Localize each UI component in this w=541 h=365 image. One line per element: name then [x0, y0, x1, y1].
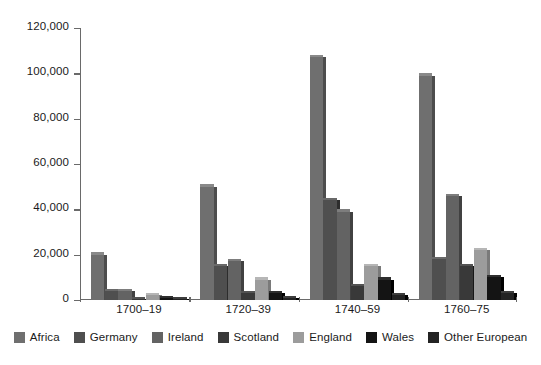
legend-item-africa[interactable]: Africa [14, 331, 60, 343]
bar-top-highlight [460, 264, 473, 266]
bar-face [200, 187, 213, 300]
bar [160, 298, 173, 300]
bar [173, 299, 186, 300]
bar [91, 255, 104, 300]
bar-top-highlight [283, 296, 296, 298]
x-tick-mark [80, 297, 81, 302]
legend-swatch-icon [293, 332, 304, 343]
y-tick-label: 40,000 [33, 201, 69, 213]
bar-group [200, 28, 296, 300]
legend-label: Africa [30, 331, 60, 343]
bar-top-highlight [419, 73, 432, 75]
x-tick-label: 1760–75 [417, 303, 517, 315]
bar-group [419, 28, 515, 300]
bar-top-highlight [337, 209, 350, 211]
bar-face [160, 298, 173, 300]
bar-top-highlight [214, 264, 227, 266]
bar-face [146, 295, 159, 300]
legend-swatch-icon [366, 332, 377, 343]
bar-top-highlight [105, 289, 118, 291]
bar-face [364, 266, 377, 300]
legend-swatch-icon [218, 332, 229, 343]
x-axis: 1700–191720–391740–591760–75 [80, 303, 517, 323]
bar [392, 295, 405, 300]
bar [351, 286, 364, 300]
bar-top-highlight [132, 297, 145, 299]
y-tick-label: 80,000 [33, 111, 69, 123]
bar-face [323, 200, 336, 300]
bar [460, 266, 473, 300]
bar [446, 196, 459, 300]
bar-face [378, 280, 391, 300]
bar [337, 212, 350, 300]
x-tick-mark [408, 297, 409, 302]
legend-item-scotland[interactable]: Scotland [218, 331, 280, 343]
legend-label: Other European [444, 331, 527, 343]
legend-item-wales[interactable]: Wales [366, 331, 414, 343]
bar-group [91, 28, 187, 300]
bar-face [269, 293, 282, 300]
bar-face [118, 291, 131, 300]
bar-top-highlight [392, 293, 405, 295]
legend-item-germany[interactable]: Germany [74, 331, 138, 343]
bar [501, 293, 514, 300]
bar-face [105, 291, 118, 300]
bar-face [419, 76, 432, 300]
y-axis: 020,00040,00060,00080,000100,000120,000 [0, 0, 80, 310]
bar [269, 293, 282, 300]
bar [378, 280, 391, 300]
bar-top-highlight [200, 184, 213, 186]
bar [432, 259, 445, 300]
bar-face [474, 250, 487, 300]
bar-face [487, 277, 500, 300]
bar [487, 277, 500, 300]
bar [323, 200, 336, 300]
bar-top-highlight [364, 264, 377, 266]
legend-item-ireland[interactable]: Ireland [152, 331, 204, 343]
x-tick-label: 1720–39 [198, 303, 298, 315]
y-tick-label: 120,000 [27, 20, 69, 32]
bar-face [460, 266, 473, 300]
bar-top-highlight [118, 289, 131, 291]
legend-label: Ireland [168, 331, 204, 343]
bar-face [446, 196, 459, 300]
bar [364, 266, 377, 300]
legend-swatch-icon [152, 332, 163, 343]
legend: AfricaGermanyIrelandScotlandEnglandWales… [0, 331, 541, 343]
legend-swatch-icon [428, 332, 439, 343]
bar-top-highlight [241, 291, 254, 293]
x-tick-mark [516, 297, 517, 302]
bar-top-highlight [146, 293, 159, 295]
bar-chart: 020,00040,00060,00080,000100,000120,000 … [0, 0, 541, 365]
bar-top-highlight [432, 257, 445, 259]
bar [118, 291, 131, 300]
y-tick-label: 20,000 [33, 247, 69, 259]
x-tick-mark [299, 297, 300, 302]
bar-face [132, 299, 145, 300]
bar-face [432, 259, 445, 300]
bar-top-highlight [474, 248, 487, 250]
bar-face [310, 57, 323, 300]
bar-top-highlight [351, 284, 364, 286]
bar [241, 293, 254, 300]
legend-swatch-icon [14, 332, 25, 343]
bar-top-highlight [501, 291, 514, 293]
legend-item-other-european[interactable]: Other European [428, 331, 527, 343]
bar [419, 76, 432, 300]
bar [228, 261, 241, 300]
bar-top-highlight [487, 275, 500, 277]
x-tick-mark [189, 297, 190, 302]
bar-top-highlight [173, 297, 186, 299]
bar [255, 280, 268, 300]
bar-top-highlight [323, 198, 336, 200]
legend-item-england[interactable]: England [293, 331, 352, 343]
bar-top-highlight [378, 277, 391, 279]
bar-top-highlight [269, 291, 282, 293]
legend-label: Germany [90, 331, 138, 343]
bar-face [283, 298, 296, 300]
bar [474, 250, 487, 300]
bar [105, 291, 118, 300]
bar-face [241, 293, 254, 300]
x-tick-label: 1740–59 [308, 303, 408, 315]
legend-label: Wales [382, 331, 414, 343]
